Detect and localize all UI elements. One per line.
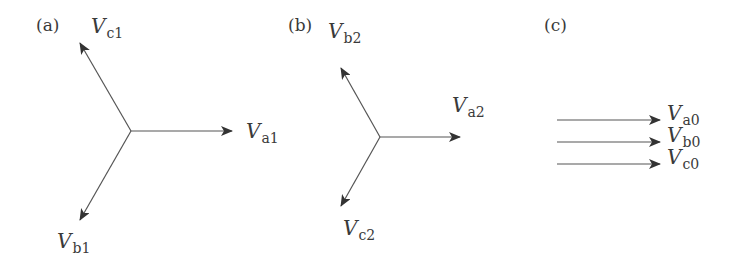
vector-vc1-label: Vc1 <box>91 14 123 41</box>
vector-vb1-label: Vb1 <box>57 229 90 256</box>
vector-va2-label: Va2 <box>452 93 485 120</box>
vector-va1-label: Va1 <box>246 119 279 146</box>
sequence-components-diagram: (a) Vc1 Va1 Vb1 (b) Vb2 Va2 Vc2 (c) Va0 … <box>0 0 732 265</box>
vector-vb1-arrow <box>80 131 131 220</box>
vector-vb2-label: Vb2 <box>328 19 361 46</box>
vector-vb2-arrow <box>341 68 380 137</box>
panel-c-zero-sequence: (c) Va0 Vb0 Vc0 <box>544 15 700 172</box>
panel-b-label: (b) <box>288 15 312 35</box>
vector-vc2-label: Vc2 <box>343 216 375 243</box>
panel-c-label: (c) <box>544 15 567 35</box>
panel-a-label: (a) <box>36 15 59 35</box>
panel-b-negative-sequence: (b) Vb2 Va2 Vc2 <box>288 15 485 243</box>
vector-vc2-arrow <box>341 137 380 206</box>
vector-vc1-arrow <box>80 43 131 131</box>
panel-a-positive-sequence: (a) Vc1 Va1 Vb1 <box>36 14 279 256</box>
